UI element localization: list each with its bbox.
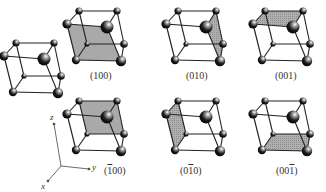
atom <box>116 56 126 66</box>
atom <box>9 88 17 96</box>
atom <box>171 56 179 64</box>
atom <box>57 72 65 80</box>
atom <box>171 146 179 154</box>
plane-label-0bar10: (010) <box>180 165 202 176</box>
atom <box>219 130 227 138</box>
atom <box>12 39 19 46</box>
atom <box>215 56 225 66</box>
atom <box>113 7 120 14</box>
atom <box>113 97 120 104</box>
atom <box>101 21 114 34</box>
cube-0bar10 <box>161 97 226 156</box>
atom <box>248 109 257 118</box>
atom <box>215 146 225 156</box>
atom <box>161 19 170 28</box>
atom <box>75 97 82 104</box>
cube-bar100 <box>62 97 127 156</box>
z-axis-label: z <box>50 112 54 122</box>
atom <box>161 109 170 118</box>
atom <box>101 111 114 124</box>
atom <box>212 97 219 104</box>
atom <box>212 7 219 14</box>
atom <box>306 40 314 48</box>
axes-triad <box>47 123 90 182</box>
atom <box>200 21 213 34</box>
atom <box>258 56 266 64</box>
atom <box>287 111 300 124</box>
atom <box>120 130 128 138</box>
atom <box>174 7 181 14</box>
atom <box>75 7 82 14</box>
atom <box>62 109 71 118</box>
atom <box>287 21 300 34</box>
atom <box>116 146 126 156</box>
plane-label-bar100: (100) <box>104 165 126 176</box>
atom <box>62 19 71 28</box>
atom <box>72 56 80 64</box>
x-axis <box>48 166 61 181</box>
shaded-plane <box>206 11 223 61</box>
reference-cube <box>0 39 65 98</box>
atom <box>84 41 89 46</box>
plane-label-00bar1: (001) <box>276 165 298 176</box>
y-axis <box>61 166 89 169</box>
crystal-planes-diagram <box>0 0 326 192</box>
cube-00bar1 <box>248 97 313 156</box>
atom <box>120 40 128 48</box>
atom <box>302 56 312 66</box>
atom <box>38 53 51 66</box>
atom <box>53 88 63 98</box>
y-axis-label: y <box>92 162 96 172</box>
cube-001 <box>248 7 313 66</box>
atom <box>219 40 227 48</box>
atom <box>306 130 314 138</box>
atom <box>302 146 312 156</box>
atom <box>200 111 213 124</box>
atom <box>270 41 275 46</box>
x-axis-label: x <box>41 181 45 191</box>
atom <box>84 131 89 136</box>
atom <box>72 146 80 154</box>
atom <box>258 146 266 154</box>
plane-label-100: (100) <box>90 70 112 81</box>
atom <box>270 131 275 136</box>
atom <box>50 39 57 46</box>
cube-010 <box>161 7 226 66</box>
atom <box>261 7 268 14</box>
atom <box>261 97 268 104</box>
atom <box>21 73 26 78</box>
atom <box>174 97 181 104</box>
atom <box>183 41 188 46</box>
atom <box>183 131 188 136</box>
atom <box>299 97 306 104</box>
plane-label-010: (010) <box>186 70 208 81</box>
plane-label-001: (001) <box>275 70 297 81</box>
atom <box>248 19 257 28</box>
z-axis <box>54 124 61 166</box>
cube-100 <box>62 7 127 66</box>
atom <box>299 7 306 14</box>
